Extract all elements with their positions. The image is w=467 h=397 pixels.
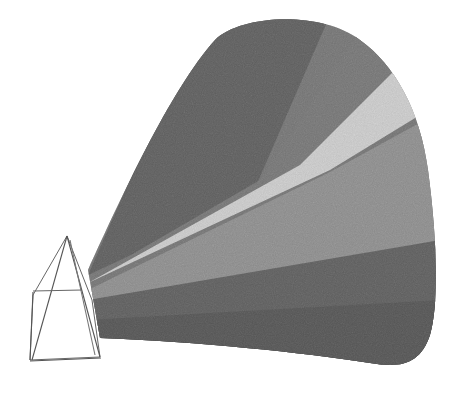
glass-prism — [30, 236, 101, 361]
drawing-canvas: Pencil drawing of a glass prism with a w… — [0, 0, 467, 397]
prism-beam-illustration — [0, 0, 467, 397]
light-beam — [80, 0, 450, 380]
